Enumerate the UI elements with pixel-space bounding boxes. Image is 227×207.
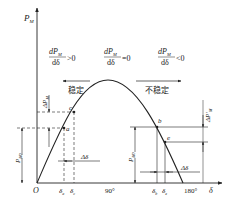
- svg-text:dδ: dδ: [52, 58, 60, 67]
- svg-text:dPM: dPM: [49, 47, 62, 57]
- svg-text:<0: <0: [176, 54, 185, 63]
- svg-text:dPM: dPM: [158, 47, 171, 57]
- power-angle-diagram: PM dPM dδ >0 dPM dδ =0 dPM dδ <0 稳定 不稳定 …: [0, 0, 227, 207]
- point-e: [164, 141, 167, 144]
- delta-c-label: δc: [70, 187, 75, 196]
- delta-p-right-label: ΔP′M: [204, 108, 213, 123]
- svg-text:=0: =0: [122, 54, 131, 63]
- delta-a-label: δa: [59, 187, 64, 196]
- delta-delta-right-label: Δδ: [180, 164, 189, 172]
- x-axis-label: δ: [209, 186, 213, 195]
- formula-left: dPM dδ >0: [49, 47, 76, 67]
- label-b: b: [158, 117, 162, 125]
- delta-p-left-label: ΔPM: [41, 96, 50, 109]
- stable-label: 稳定: [68, 85, 84, 95]
- unstable-label: 不稳定: [145, 85, 169, 95]
- tick-90: 90°: [105, 187, 115, 195]
- y-axis-label: PM: [23, 13, 35, 24]
- power-angle-curve: [37, 80, 183, 183]
- label-a: a: [66, 125, 70, 133]
- tick-180: 180°: [184, 187, 198, 195]
- delta-e-label: δe: [162, 187, 167, 196]
- origin-label: O: [33, 186, 39, 195]
- point-a: [63, 127, 66, 130]
- delta-delta-left-label: Δδ: [80, 153, 89, 161]
- label-e: e: [167, 134, 170, 142]
- delta-b-label: δb: [152, 187, 157, 196]
- p-left-label: PM0: [14, 153, 23, 164]
- point-b: [156, 126, 159, 129]
- svg-text:>0: >0: [67, 54, 76, 63]
- svg-text:dPM: dPM: [104, 47, 117, 57]
- formula-right: dPM dδ <0: [158, 47, 185, 67]
- formula-middle: dPM dδ =0: [104, 47, 131, 67]
- svg-text:dδ: dδ: [161, 58, 169, 67]
- svg-text:dδ: dδ: [107, 58, 115, 67]
- p-right-label: PM0: [127, 152, 136, 163]
- point-c: [73, 111, 76, 114]
